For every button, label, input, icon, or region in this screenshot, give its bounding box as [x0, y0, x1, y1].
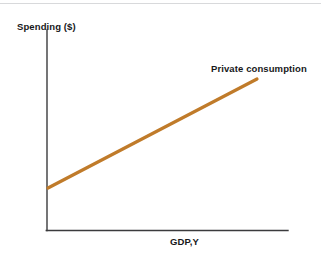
- series-line-private-consumption: [48, 79, 257, 188]
- chart-figure: Spending ($) Private consumption GDP,Y: [0, 0, 321, 260]
- plot-area: [0, 0, 321, 260]
- series-label-private-consumption: Private consumption: [211, 63, 307, 74]
- x-axis-title: GDP,Y: [170, 236, 199, 247]
- y-axis-title: Spending ($): [17, 21, 76, 32]
